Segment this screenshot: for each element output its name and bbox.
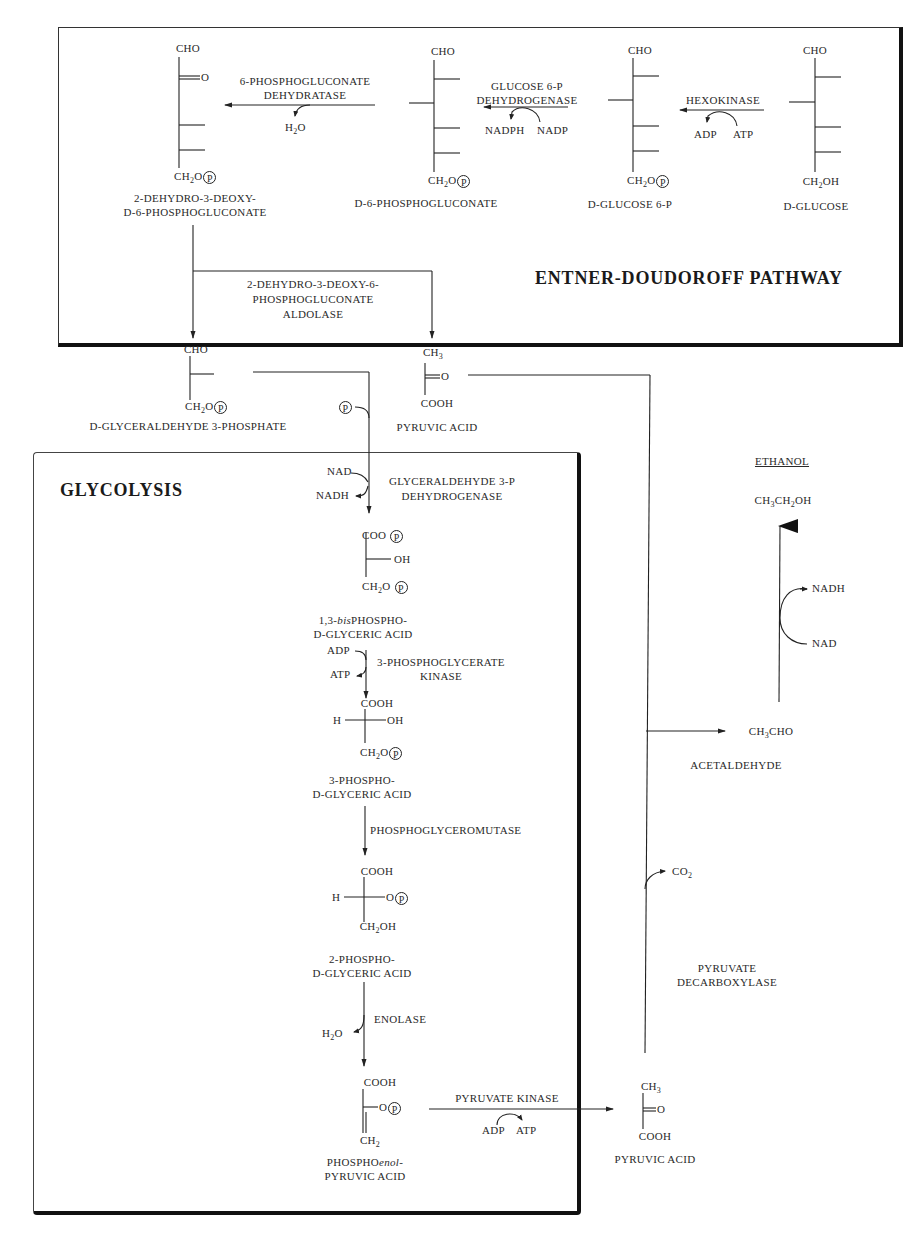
pyruvate-gly-label: PYRUVIC ACID bbox=[615, 1153, 696, 1166]
g3p-top-group: CHO bbox=[184, 343, 208, 356]
pep-phospho-oxygen: OP bbox=[379, 1101, 401, 1115]
acetaldehyde-label: ACETALDEHYDE bbox=[690, 759, 781, 772]
gapdh-nad: NAD bbox=[327, 465, 352, 478]
phosphate-icon: P bbox=[203, 171, 216, 184]
dehydratase-line2: DEHYDRATASE bbox=[264, 89, 346, 102]
3pg-label-line1: 3-PHOSPHO- bbox=[329, 774, 395, 787]
g3p-bottom-group: CH2OP bbox=[185, 400, 227, 414]
pep-label-line1: PHOSPHOenol- bbox=[327, 1156, 403, 1169]
g6p-bottom-group: CH2OP bbox=[627, 174, 669, 188]
pgk-atp: ATP bbox=[330, 668, 350, 681]
aldolase-line2: PHOSPHOGLUCONATE bbox=[253, 293, 374, 306]
3pg-label-line2: D-GLYCERIC ACID bbox=[312, 788, 411, 801]
pep-label-line2: PYRUVIC ACID bbox=[325, 1170, 406, 1183]
kdpg-label-line1: 2-DEHYDRO-3-DEOXY- bbox=[134, 192, 256, 205]
2pg-label-line1: 2-PHOSPHO- bbox=[329, 953, 395, 966]
6pg-label: D-6-PHOSPHOGLUCONATE bbox=[355, 197, 498, 210]
2pg-top-group: COOH bbox=[361, 865, 393, 878]
pyruvate-gly-top-group: CH3 bbox=[641, 1080, 661, 1093]
bpg-top-group: COO P bbox=[362, 529, 403, 543]
decarboxylase-line1: PYRUVATE bbox=[698, 962, 756, 975]
g6p-dehydrogenase-line2: DEHYDROGENASE bbox=[476, 94, 577, 107]
g6p-label: D-GLUCOSE 6-P bbox=[588, 198, 672, 211]
pgk-adp: ADP bbox=[327, 644, 350, 657]
bpg-label-line1: 1,3-bisPHOSPHO- bbox=[319, 614, 408, 627]
kdpg-top-group: CHO bbox=[176, 42, 200, 55]
pyruvate-ed-bottom-group: COOH bbox=[421, 397, 453, 410]
enolase-label: ENOLASE bbox=[374, 1013, 426, 1026]
decarboxylase-line2: DECARBOXYLASE bbox=[677, 976, 777, 989]
kdpg-keto-oxygen: O bbox=[201, 71, 209, 84]
d-glucose-label: D-GLUCOSE bbox=[783, 200, 848, 213]
phosphate-icon: P bbox=[339, 401, 352, 414]
3pg-bottom-group: CH2OP bbox=[360, 746, 402, 760]
glycolysis-title: GLYCOLYSIS bbox=[60, 484, 183, 497]
gapdh-line2: DEHYDROGENASE bbox=[401, 490, 502, 503]
3pg-hydrogen: H bbox=[333, 714, 341, 727]
pgk-line2: KINASE bbox=[420, 670, 462, 683]
g6p-top-group: CHO bbox=[628, 44, 652, 57]
6pg-bottom-group: CH2OP bbox=[428, 174, 470, 188]
2pg-phospho-oxygen: OP bbox=[386, 891, 408, 905]
3pg-hydroxyl: OH bbox=[387, 714, 404, 727]
dehydratase-line1: 6-PHOSPHOGLUCONATE bbox=[240, 75, 371, 88]
kdpg-bottom-group: CH2OP bbox=[174, 170, 216, 184]
adh-nad: NAD bbox=[812, 637, 837, 650]
entner-doudoroff-title: ENTNER-DOUDOROFF PATHWAY bbox=[535, 272, 843, 285]
hexokinase-atp: ATP bbox=[733, 128, 753, 141]
phosphate-icon: P bbox=[457, 175, 470, 188]
bpg-hydroxyl: OH bbox=[394, 553, 411, 566]
pep-top-group: COOH bbox=[364, 1076, 396, 1089]
2pg-hydrogen: H bbox=[332, 891, 340, 904]
pyruvate-kinase-adp: ADP bbox=[482, 1124, 505, 1137]
g3p-label: D-GLYCERALDEHYDE 3-PHOSPHATE bbox=[89, 420, 286, 433]
d-glucose-top-group: CHO bbox=[803, 44, 827, 57]
dehydratase-h2o: H2O bbox=[285, 121, 306, 134]
enolase-h2o: H2O bbox=[322, 1027, 343, 1040]
2pg-bottom-group: CH2OH bbox=[360, 920, 397, 933]
acetaldehyde-formula: CH3CHO bbox=[749, 725, 793, 738]
ethanol-formula: CH3CH2OH bbox=[755, 494, 812, 507]
g6p-dh-nadp: NADP bbox=[537, 124, 568, 137]
ethanol-title: ETHANOL bbox=[755, 455, 809, 468]
pgm-label: PHOSPHOGLYCEROMUTASE bbox=[370, 824, 521, 837]
pyruvate-ed-label: PYRUVIC ACID bbox=[397, 421, 478, 434]
aldolase-line1: 2-DEHYDRO-3-DEOXY-6- bbox=[247, 278, 379, 291]
pyruvate-kinase-label: PYRUVATE KINASE bbox=[455, 1092, 559, 1105]
g6p-dh-nadph: NADPH bbox=[485, 124, 524, 137]
pyruvate-gly-keto-oxygen: O bbox=[657, 1103, 665, 1116]
phosphate-icon: P bbox=[388, 1102, 401, 1115]
pep-bottom-group: CH2 bbox=[360, 1134, 380, 1147]
bpg-label-line2: D-GLYCERIC ACID bbox=[313, 628, 412, 641]
phosphate-icon: P bbox=[214, 401, 227, 414]
phosphate-icon: P bbox=[390, 530, 403, 543]
6pg-top-group: CHO bbox=[431, 45, 455, 58]
kdpg-label-line2: D-6-PHOSPHOGLUCONATE bbox=[124, 206, 267, 219]
gapdh-nadh: NADH bbox=[316, 489, 349, 502]
bpg-bottom-group: CH2O P bbox=[362, 580, 408, 594]
hexokinase-label: HEXOKINASE bbox=[686, 94, 760, 107]
phosphate-icon: P bbox=[389, 747, 402, 760]
phosphate-icon: P bbox=[656, 175, 669, 188]
pyruvate-gly-bottom-group: COOH bbox=[639, 1130, 671, 1143]
aldolase-line3: ALDOLASE bbox=[283, 308, 343, 321]
g6p-dehydrogenase-line1: GLUCOSE 6-P bbox=[491, 80, 563, 93]
3pg-top-group: COOH bbox=[361, 697, 393, 710]
hexokinase-adp: ADP bbox=[694, 128, 717, 141]
phosphate-icon: P bbox=[395, 892, 408, 905]
pyruvate-ed-top-group: CH3 bbox=[423, 346, 443, 359]
adh-nadh: NADH bbox=[812, 582, 845, 595]
d-glucose-bottom-group: CH2OH bbox=[803, 175, 840, 188]
pyruvate-kinase-atp: ATP bbox=[516, 1124, 536, 1137]
pyruvate-ed-keto-oxygen: O bbox=[441, 370, 449, 383]
decarboxylase-co2-label: CO2 bbox=[672, 865, 692, 878]
2pg-label-line2: D-GLYCERIC ACID bbox=[312, 967, 411, 980]
pgk-line1: 3-PHOSPHOGLYCERATE bbox=[377, 656, 505, 669]
phosphate-icon: P bbox=[395, 581, 408, 594]
gapdh-line1: GLYCERALDEHYDE 3-P bbox=[389, 475, 515, 488]
